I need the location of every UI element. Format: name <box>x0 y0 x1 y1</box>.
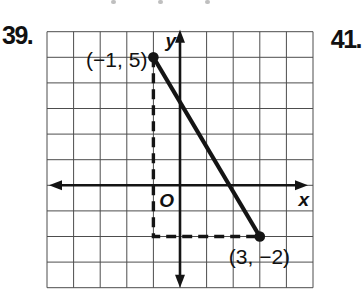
x-axis-label: x <box>297 189 310 210</box>
y-axis-bottom-arrowhead <box>175 275 185 288</box>
y-axis-label: y <box>164 30 177 51</box>
point-label-upper: (−1, 5) <box>86 48 147 71</box>
x-axis-left-arrowhead <box>49 180 62 190</box>
endpoint-dot <box>254 231 265 242</box>
coordinate-plane: (−1, 5)(3, −2)yxO <box>0 0 362 305</box>
cropped-text-artifact <box>111 0 116 4</box>
origin-label: O <box>159 190 174 211</box>
cropped-text-artifact <box>205 0 210 4</box>
point-label-lower: (3, −2) <box>229 245 290 268</box>
textbook-figure-page: 39. 41. (−1, 5)(3, −2)yxO <box>0 0 362 305</box>
cropped-text-artifact <box>158 0 163 4</box>
endpoint-dot <box>148 52 159 63</box>
